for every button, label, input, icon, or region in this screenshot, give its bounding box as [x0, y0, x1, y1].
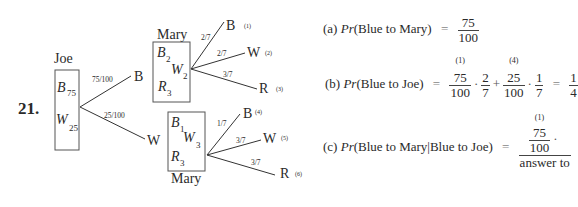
outcome-mary-lower-w: W	[263, 131, 277, 146]
eq-a-event: (Blue to Mary)	[354, 21, 432, 36]
branch-mary-lower-w	[207, 140, 261, 155]
prob-mary-lower-w: 3/7	[236, 136, 246, 145]
eq-b-term1-num: 75	[449, 71, 471, 85]
eq-c-label: (c)	[323, 139, 337, 154]
eq-c-result: (1) 75 100 · answer to	[519, 126, 571, 170]
tag-5: (5)	[281, 135, 288, 142]
equation-a: (a) Pr(Blue to Mary) = 75 100	[323, 16, 479, 45]
eq-c-num-frac: (1) 75 100	[529, 126, 551, 155]
eq-c-pr: Pr	[341, 139, 354, 154]
eq-b-term2-den: 100	[503, 85, 525, 100]
problem-number: 21.	[18, 99, 39, 118]
eq-b-factor2-den: 7	[535, 85, 544, 100]
prob-mary-upper-w: 2/7	[217, 49, 227, 58]
eq-b-tag-1: (1)	[456, 56, 465, 65]
mary-upper-content-r: R	[157, 79, 167, 94]
outcome-mary-upper-r: R	[259, 81, 269, 96]
eq-b-label: (b)	[325, 76, 340, 91]
eq-b-equals: =	[433, 76, 440, 91]
eq-b-result: 1 4	[569, 71, 578, 100]
outcome-mary-lower-b: B	[243, 106, 252, 121]
mary-lower-content-w-count: 3	[196, 140, 201, 150]
eq-b-equals-2: =	[553, 76, 560, 91]
eq-b-factor2: 1 7	[535, 71, 544, 100]
eq-c-num-frac-den: 100	[529, 140, 551, 155]
joe-content-w-count: 25	[69, 123, 79, 133]
equation-c: (c) Pr(Blue to Mary|Blue to Joe) = (1) 7…	[323, 126, 571, 170]
mary-upper-content-b: B	[157, 45, 166, 60]
equation-b: (b) Pr(Blue to Joe) = (1) 75 100 · 2 7 +…	[325, 71, 578, 100]
joe-content-b: B	[57, 80, 66, 95]
tag-4: (4)	[255, 109, 262, 116]
eq-a-equals: =	[441, 21, 448, 36]
eq-a-result: 75 100	[458, 16, 480, 45]
eq-c-equals: =	[502, 139, 509, 154]
mary-upper-content-b-count: 2	[166, 54, 171, 64]
prob-joe-w: 25/100	[104, 111, 125, 120]
prob-mary-upper-b: 2/7	[201, 33, 211, 42]
eq-b-factor2-num: 1	[535, 71, 544, 85]
mary-upper-content-r-count: 3	[167, 88, 172, 98]
prob-mary-lower-b: 1/7	[217, 119, 227, 128]
eq-a-result-den: 100	[458, 30, 480, 45]
eq-b-factor1: 2 7	[481, 71, 490, 100]
eq-b-tag-4: (4)	[509, 56, 518, 65]
eq-b-factor1-den: 7	[481, 85, 490, 100]
eq-b-term2-num: 25	[503, 71, 525, 85]
branch-mary-upper-b	[191, 22, 224, 69]
eq-c-denominator: answer to	[519, 155, 571, 170]
eq-c-tag-1: (1)	[535, 111, 544, 125]
mary-lower-content-b: B	[171, 115, 180, 130]
eq-b-plus: +	[493, 76, 500, 91]
eq-c-dot: ·	[553, 131, 557, 146]
eq-b-term1-den: 100	[449, 85, 471, 100]
joe-content-w: W	[56, 112, 69, 127]
eq-a-result-num: 75	[458, 16, 480, 30]
eq-b-result-num: 1	[569, 71, 578, 85]
mary-lower-label: Mary	[171, 171, 201, 186]
tag-2: (2)	[265, 50, 272, 57]
tag-3: (3)	[276, 86, 283, 93]
eq-c-num-frac-num: 75	[529, 126, 551, 140]
branch-mary-lower-r	[207, 155, 275, 175]
eq-b-term2: (4) 25 100	[503, 71, 525, 100]
eq-c-numerator: (1) 75 100 ·	[519, 126, 571, 155]
prob-mary-lower-r: 3/7	[251, 158, 261, 167]
outcome-mary-upper-w: W	[247, 45, 261, 60]
outcome-joe-w: W	[147, 133, 161, 148]
mary-lower-content-r-count: 3	[180, 158, 185, 168]
eq-a-pr: Pr	[341, 21, 354, 36]
mary-upper-label: Mary	[157, 27, 187, 42]
mary-lower-content-w: W	[183, 130, 196, 145]
eq-a-label: (a)	[323, 21, 337, 36]
tag-1: (1)	[244, 23, 251, 30]
eq-b-factor1-num: 2	[481, 71, 490, 85]
outcome-mary-upper-b: B	[226, 18, 235, 33]
eq-c-event: (Blue to Mary|Blue to Joe)	[354, 139, 493, 154]
eq-b-pr: Pr	[343, 76, 356, 91]
joe-content-b-count: 75	[67, 88, 77, 98]
prob-joe-b: 75/100	[92, 75, 113, 84]
mary-upper-content-w-count: 2	[183, 71, 188, 81]
prob-mary-upper-r: 3/7	[223, 70, 233, 79]
tag-6: (6)	[295, 171, 302, 178]
eq-b-dot-2: ·	[528, 76, 532, 91]
eq-b-result-den: 4	[569, 85, 578, 100]
outcome-joe-b: B	[134, 69, 143, 84]
outcome-mary-lower-r: R	[280, 166, 290, 181]
mary-lower-content-r: R	[170, 149, 180, 164]
eq-b-event: (Blue to Joe)	[356, 76, 423, 91]
eq-b-term1: (1) 75 100	[449, 71, 471, 100]
eq-b-dot-1: ·	[474, 76, 478, 91]
joe-label: Joe	[54, 51, 73, 66]
